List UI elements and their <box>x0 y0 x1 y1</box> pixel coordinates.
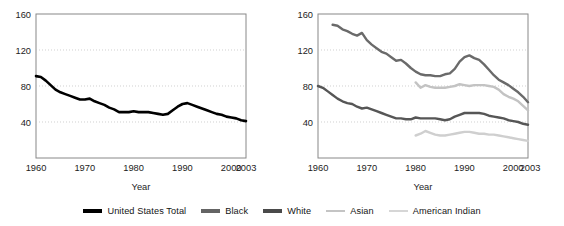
legend-swatch-icon-american-indian <box>389 210 408 213</box>
left-x-axis-title: Year <box>132 182 151 192</box>
legend-label-black: Black <box>225 206 248 216</box>
legend-label-united-states-total: United States Total <box>107 206 186 216</box>
legend-swatch-icon-united-states-total <box>83 209 102 213</box>
left-xtick-1970: 1970 <box>74 163 95 173</box>
legend-item-united-states-total[interactable]: United States Total <box>83 206 186 216</box>
legend-item-white[interactable]: White <box>263 206 311 216</box>
left-xtick-2003: 2003 <box>236 163 257 173</box>
right-ytick-40: 40 <box>303 118 313 128</box>
legend-swatch-icon-black <box>201 209 220 212</box>
legend-item-asian[interactable]: Asian <box>326 206 373 216</box>
left-xtick-1990: 1990 <box>172 163 193 173</box>
left-ytick-120: 120 <box>15 46 31 56</box>
figure-two-line-charts: 160 120 80 40 1960 1970 1980 1990 2000 2… <box>0 0 564 226</box>
legend-label-white: White <box>287 206 311 216</box>
right-ytick-120: 120 <box>297 46 313 56</box>
right-xtick-1990: 1990 <box>454 163 475 173</box>
left-chart-panel: 160 120 80 40 1960 1970 1980 1990 2000 2… <box>0 0 282 196</box>
chart-panels: 160 120 80 40 1960 1970 1980 1990 2000 2… <box>0 0 564 196</box>
right-xtick-2003: 2003 <box>520 163 541 173</box>
right-xtick-1960: 1960 <box>308 163 329 173</box>
left-ytick-40: 40 <box>21 118 31 128</box>
legend-item-american-indian[interactable]: American Indian <box>389 206 481 216</box>
legend-label-american-indian: American Indian <box>413 206 481 216</box>
right-y-tick-labels: 160 120 80 40 <box>297 10 313 128</box>
left-x-tick-labels: 1960 1970 1980 1990 2000 2003 <box>26 163 257 173</box>
right-xtick-1980: 1980 <box>405 163 426 173</box>
right-chart-svg: 160 120 80 40 1960 1970 1980 1990 2000 <box>282 0 564 196</box>
legend-item-black[interactable]: Black <box>201 206 248 216</box>
left-y-tick-labels: 160 120 80 40 <box>15 10 31 128</box>
right-ytick-160: 160 <box>297 10 313 20</box>
right-ytick-80: 80 <box>303 82 313 92</box>
legend-swatch-icon-asian <box>326 210 345 213</box>
legend-swatch-icon-white <box>263 209 282 212</box>
chart-legend: United States Total Black White Asian Am… <box>0 198 564 224</box>
left-xtick-1960: 1960 <box>26 163 47 173</box>
left-ytick-80: 80 <box>21 82 31 92</box>
left-chart-svg: 160 120 80 40 1960 1970 1980 1990 2000 2… <box>0 0 282 196</box>
legend-label-asian: Asian <box>350 206 373 216</box>
right-xtick-1970: 1970 <box>356 163 377 173</box>
left-xtick-1980: 1980 <box>123 163 144 173</box>
right-x-axis-title: Year <box>414 182 433 192</box>
right-x-tick-labels: 1960 1970 1980 1990 2000 2003 <box>308 163 541 173</box>
right-chart-panel: 160 120 80 40 1960 1970 1980 1990 2000 <box>282 0 564 196</box>
left-ytick-160: 160 <box>15 10 31 20</box>
